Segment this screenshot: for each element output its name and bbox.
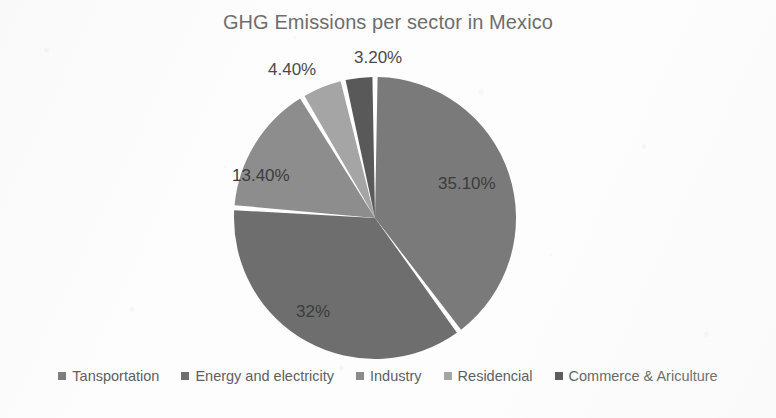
pie-slice-group [234, 77, 516, 359]
slice-label-tansportation: 35.10% [438, 174, 496, 194]
legend-swatch-icon [555, 372, 563, 380]
legend-item[interactable]: Industry [356, 368, 422, 384]
slice-label-commerce-and-ariculture: 3.20% [354, 48, 402, 68]
legend-item-label: Industry [370, 368, 422, 384]
chart-legend: TansportationEnergy and electricityIndus… [0, 368, 776, 384]
legend-item[interactable]: Energy and electricity [181, 368, 334, 384]
legend-item-label: Commerce & Ariculture [569, 368, 718, 384]
legend-swatch-icon [356, 372, 364, 380]
legend-swatch-icon [444, 372, 452, 380]
pie-chart: 35.10% 32% 13.40% 4.40% 3.20% [0, 0, 776, 372]
legend-item[interactable]: Residencial [444, 368, 533, 384]
legend-item-label: Energy and electricity [195, 368, 334, 384]
legend-item-label: Tansportation [72, 368, 159, 384]
slice-label-industry: 13.40% [232, 166, 290, 186]
legend-swatch-icon [181, 372, 189, 380]
legend-swatch-icon [58, 372, 66, 380]
slice-label-energy-and-electricity: 32% [296, 302, 330, 322]
legend-item[interactable]: Commerce & Ariculture [555, 368, 718, 384]
legend-item-label: Residencial [458, 368, 533, 384]
slice-label-residencial: 4.40% [268, 60, 316, 80]
legend-item[interactable]: Tansportation [58, 368, 159, 384]
